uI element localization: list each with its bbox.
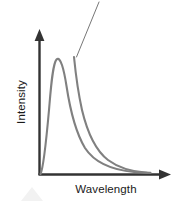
- x-axis-arrow-icon: [159, 170, 171, 180]
- intensity-wavelength-plot: [0, 0, 184, 205]
- emission-curve-1: [41, 59, 151, 174]
- y-axis-label: Intensity: [15, 54, 27, 150]
- x-axis-label: Wavelength: [0, 183, 184, 195]
- figure-container: Intensity Wavelength: [0, 0, 184, 205]
- y-axis-arrow-icon: [35, 29, 45, 41]
- leader-line: [77, 2, 100, 57]
- emission-curve-2: [74, 57, 147, 173]
